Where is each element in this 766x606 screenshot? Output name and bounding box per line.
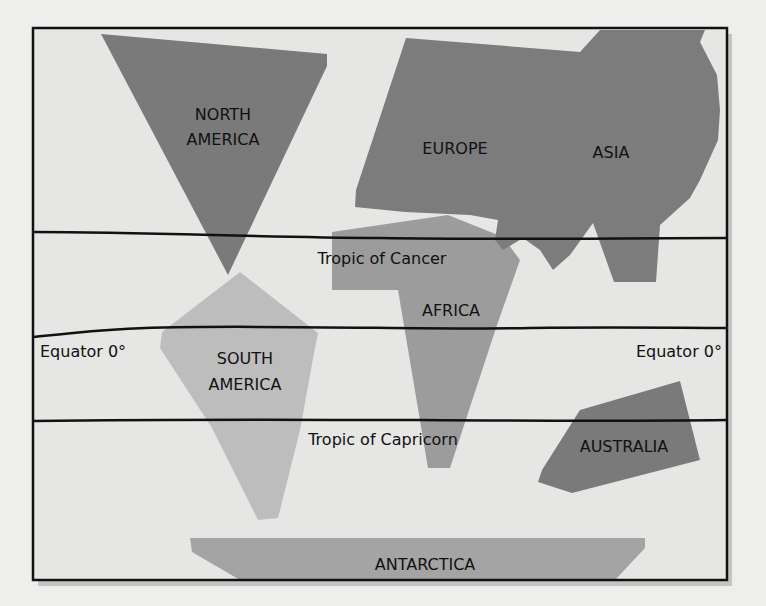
north-america-label-1: NORTH: [195, 105, 251, 124]
equator-label-left: Equator 0°: [40, 342, 126, 361]
south-america-label-1: SOUTH: [217, 349, 273, 368]
equator-label-right: Equator 0°: [636, 342, 722, 361]
europe-label: EUROPE: [422, 139, 487, 158]
south-america-label-2: AMERICA: [209, 375, 282, 394]
tropic-of-cancer-label: Tropic of Cancer: [317, 249, 447, 268]
africa-label: AFRICA: [422, 301, 480, 320]
world-map: NORTH AMERICA EUROPE ASIA Tropic of Canc…: [0, 0, 766, 606]
antarctica-label: ANTARCTICA: [375, 555, 476, 574]
australia-label: AUSTRALIA: [580, 437, 669, 456]
north-america-label-2: AMERICA: [187, 130, 260, 149]
asia-label: ASIA: [593, 143, 630, 162]
tropic-of-capricorn-label: Tropic of Capricorn: [307, 430, 458, 449]
tropic-of-capricorn-line: [33, 420, 727, 421]
